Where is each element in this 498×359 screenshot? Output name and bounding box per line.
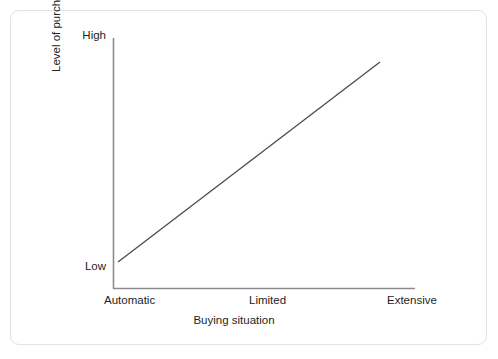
- y-axis-tick-low: Low: [85, 260, 106, 273]
- x-axis-tick-limited: Limited: [249, 294, 286, 307]
- x-axis-title: Buying situation: [0, 314, 498, 326]
- y-axis-tick-high: High: [82, 29, 106, 42]
- x-axis-tick-extensive: Extensive: [387, 294, 437, 307]
- x-axis-tick-automatic: Automatic: [104, 294, 155, 307]
- y-axis-title: Level of purchase involvement: [50, 0, 62, 72]
